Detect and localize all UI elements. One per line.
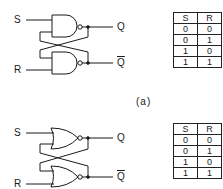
table-row: 01 <box>174 35 222 46</box>
nor-gate-top <box>51 128 78 149</box>
table-row: 01 <box>174 146 222 157</box>
truth-table-nand: SR 00 01 10 11 <box>173 12 222 68</box>
table-row: 10 <box>174 46 222 57</box>
nor-gate-bottom <box>51 166 78 187</box>
truth-table-nor: SR 00 01 10 11 <box>173 123 222 179</box>
nand-gate-top <box>52 15 77 37</box>
input-s-label: S <box>14 15 21 25</box>
nand-gate-bottom <box>52 52 77 74</box>
table-row: 00 <box>174 135 222 146</box>
inversion-bubble <box>78 25 82 29</box>
header-r: R <box>198 124 222 135</box>
input-r-label: R <box>14 65 21 75</box>
figure-caption: (a) <box>136 96 151 107</box>
header-s: S <box>174 124 198 135</box>
table-row: 10 <box>174 157 222 168</box>
output-qbar-label: Q <box>117 58 125 68</box>
table-row: 00 <box>174 24 222 35</box>
table-row: 11 <box>174 168 222 179</box>
output-q-label-2: Q <box>117 133 125 143</box>
input-r-label-2: R <box>14 179 21 189</box>
nand-latch <box>26 15 113 74</box>
header-s: S <box>174 13 198 24</box>
input-s-label-2: S <box>14 128 21 138</box>
table-row: 11 <box>174 57 222 68</box>
nor-latch <box>26 128 113 187</box>
output-qbar-label-2: Q <box>117 172 125 182</box>
output-q-label: Q <box>117 22 125 32</box>
header-r: R <box>198 13 222 24</box>
